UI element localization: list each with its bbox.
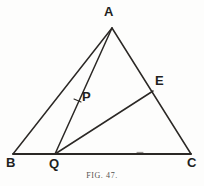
figure-container: A B C E P Q FIG. 47. bbox=[0, 0, 204, 186]
vertex-label-a: A bbox=[104, 5, 113, 18]
vertex-label-c: C bbox=[187, 156, 196, 169]
geometry-diagram bbox=[0, 0, 204, 186]
vertex-label-b: B bbox=[6, 156, 15, 169]
segment-ab bbox=[13, 28, 112, 154]
figure-caption: FIG. 47. bbox=[0, 171, 204, 180]
vertex-label-p: P bbox=[82, 90, 91, 103]
segment-ca bbox=[112, 28, 191, 154]
vertex-label-e: E bbox=[155, 74, 164, 87]
vertex-label-q: Q bbox=[49, 157, 59, 170]
